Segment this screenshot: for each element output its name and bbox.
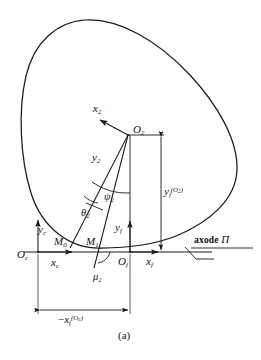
label-O2: O2 (133, 124, 144, 137)
mu2-arc (98, 252, 110, 263)
x2-axis (100, 120, 128, 135)
label-M1: M1 (86, 236, 99, 249)
label-x2: x2 (93, 103, 101, 116)
label-M0: M0 (54, 236, 67, 249)
label-yf-O2-dimension: yf(O2) (164, 186, 183, 199)
label-xf: xf (146, 256, 153, 269)
label-yf: yf (115, 222, 122, 235)
figure-caption: (a) (118, 330, 130, 341)
axode-curve (21, 20, 237, 248)
axode-leader-line (185, 247, 253, 259)
label-xc: xc (51, 257, 59, 270)
label-neg-xf-Oc-dimension: −xf(Oc) (58, 314, 83, 327)
diagram-canvas (0, 0, 261, 360)
label-Oc: Oc (17, 249, 28, 262)
figure-container: x2 O2 y2 ψ2 θ2 yc M0 M1 Oc xc μ2 yf Of x… (0, 0, 261, 360)
label-theta2: θ2 (81, 208, 89, 219)
label-Of: Of (118, 256, 128, 269)
label-axode: axode Π (194, 234, 229, 246)
label-yc: yc (38, 224, 46, 237)
label-mu2: μ2 (93, 272, 102, 283)
label-psi2: ψ2 (104, 192, 114, 203)
label-y2: y2 (92, 152, 100, 165)
point-markers (37, 134, 131, 253)
